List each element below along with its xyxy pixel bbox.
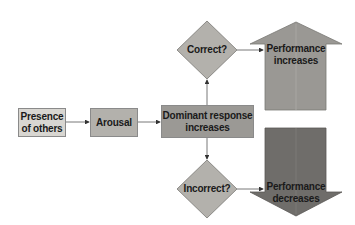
incorrect-label: Incorrect? [177, 183, 237, 195]
perf-down-line2: decreases [262, 193, 330, 205]
arousal-label: Arousal [96, 117, 132, 129]
perf-down-line1: Performance [262, 181, 330, 193]
dominant-label-line1: Dominant response [163, 110, 253, 122]
social-facilitation-diagram: Presence of others Arousal Dominant resp… [0, 0, 355, 225]
dominant-response-box: Dominant response increases [161, 105, 254, 138]
presence-of-others-box: Presence of others [18, 108, 66, 137]
performance-decreases-label: Performance decreases [262, 181, 330, 205]
perf-up-line2: increases [262, 55, 330, 67]
presence-label-line2: of others [21, 123, 64, 135]
arousal-box: Arousal [90, 108, 138, 137]
correct-label: Correct? [177, 44, 237, 56]
perf-up-line1: Performance [262, 43, 330, 55]
performance-increases-label: Performance increases [262, 43, 330, 67]
presence-label-line1: Presence [21, 111, 64, 123]
dominant-label-line2: increases [163, 122, 253, 134]
